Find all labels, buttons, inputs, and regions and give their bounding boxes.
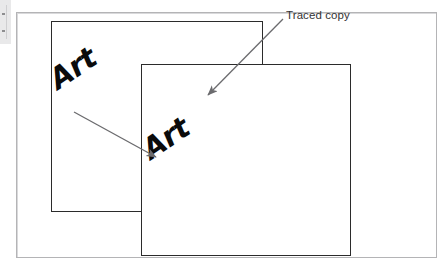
label-traced-copy: Traced copy bbox=[286, 9, 350, 21]
scan-edge-artifact bbox=[0, 0, 11, 44]
artifact-tick-top bbox=[2, 13, 5, 15]
rectangle-traced-copy bbox=[141, 64, 351, 256]
artifact-tick-bottom bbox=[2, 30, 5, 32]
figure-canvas: Art Art Traced copy bbox=[0, 0, 446, 271]
artifact-rule bbox=[6, 5, 7, 39]
